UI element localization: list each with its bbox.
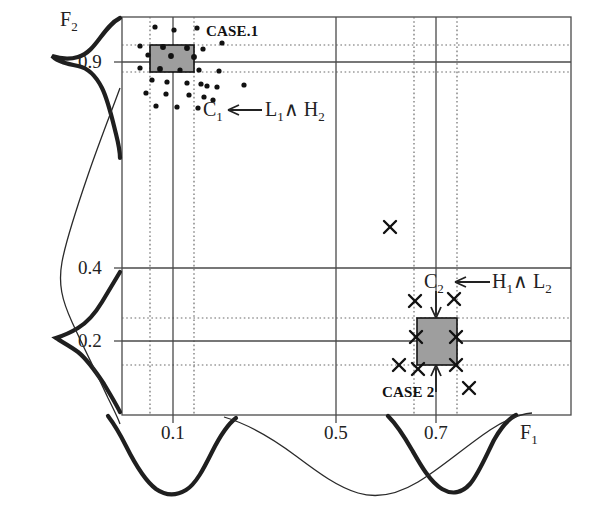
rule-2-rhs: L — [533, 270, 545, 292]
rule-1-conjunction: ∧ — [284, 98, 299, 120]
annotation-rule-1: L1∧ H2 — [265, 99, 325, 123]
annotation-c2-label: C2 — [424, 271, 444, 295]
left-density-thick — [52, 18, 120, 158]
rule-1-rhs: H — [304, 98, 318, 120]
y-tick-label-0: 0.9 — [78, 52, 102, 71]
plot-frame — [122, 17, 571, 415]
annotation-c2-text: C — [424, 270, 437, 292]
case-1-label: CASE.1 — [206, 24, 258, 39]
left-density-thin — [60, 88, 120, 424]
annotation-c1-label: C1 — [203, 99, 223, 123]
x-axis-label-text: F — [520, 421, 531, 443]
y-tick-label-1: 0.4 — [78, 258, 102, 277]
case-2-label: CASE 2 — [382, 385, 434, 400]
x-tick-label-1: 0.5 — [324, 423, 348, 442]
x-axis-label-sub: 1 — [531, 432, 538, 447]
x-axis-label: F1 — [520, 422, 538, 446]
annotation-c2-sub: 2 — [437, 281, 444, 296]
rule-2-rhs-sub: 2 — [545, 281, 552, 296]
annotation-c1-sub: 1 — [216, 109, 223, 124]
y-axis-label-sub: 2 — [71, 19, 78, 34]
figure-canvas: F2 F1 0.9 0.4 0.2 0.1 0.5 0.7 CASE.1 CAS… — [0, 0, 597, 519]
y-tick-label-2: 0.2 — [78, 331, 102, 350]
rule-1-lhs: L — [265, 98, 277, 120]
rule-2-conjunction: ∧ — [513, 270, 528, 292]
x-tick-label-2: 0.7 — [424, 423, 448, 442]
y-axis-label: F2 — [60, 9, 78, 33]
bottom-density-thick-right — [388, 415, 516, 492]
rule-1-rhs-sub: 2 — [318, 109, 325, 124]
y-axis-label-text: F — [60, 8, 71, 30]
x-tick-label-0: 0.1 — [161, 423, 185, 442]
annotation-rule-2: H1∧ L2 — [492, 271, 552, 295]
annotation-c1-text: C — [203, 98, 216, 120]
rule-2-lhs: H — [492, 270, 506, 292]
